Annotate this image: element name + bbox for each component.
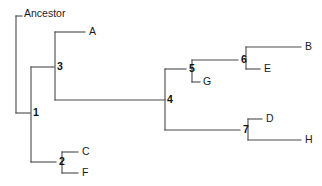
leaf-E: E	[264, 63, 271, 74]
internal-node-5: 5	[189, 63, 195, 74]
leaf-C: C	[82, 146, 90, 157]
leaf-A: A	[89, 26, 96, 37]
tree-branches	[0, 0, 322, 186]
leaf-B: B	[305, 41, 312, 52]
internal-node-7: 7	[243, 124, 249, 135]
leaf-H: H	[305, 134, 313, 145]
internal-node-2: 2	[59, 156, 65, 167]
root-label-ancestor: Ancestor	[24, 8, 65, 19]
leaf-G: G	[203, 76, 211, 87]
internal-node-1: 1	[33, 107, 39, 118]
branch-group	[16, 16, 301, 173]
leaf-F: F	[82, 167, 88, 178]
phylogenetic-tree-figure: Ancestor 1234567 ACFGBEDH	[0, 0, 322, 186]
internal-node-6: 6	[241, 54, 247, 65]
internal-node-4: 4	[167, 94, 173, 105]
internal-node-3: 3	[57, 61, 63, 72]
leaf-D: D	[266, 113, 274, 124]
